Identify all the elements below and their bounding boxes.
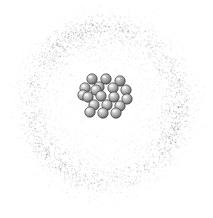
nucleon <box>89 100 99 110</box>
nucleus <box>0 0 213 218</box>
nucleon-group <box>78 74 132 118</box>
nucleon-highlight <box>91 102 95 105</box>
nucleon <box>121 85 131 95</box>
nucleon <box>85 107 95 117</box>
atom-illustration <box>0 0 213 218</box>
nucleon-highlight <box>85 94 89 97</box>
nucleon <box>102 100 112 110</box>
nucleon <box>80 83 90 93</box>
nucleon <box>87 74 97 84</box>
nucleon <box>96 91 106 101</box>
nucleon <box>109 92 119 102</box>
nucleon <box>94 82 104 92</box>
nucleon <box>115 76 125 86</box>
nucleon-highlight <box>117 78 121 81</box>
nucleon <box>98 108 108 118</box>
electron-cloud-svg <box>0 0 213 218</box>
nucleon-highlight <box>110 85 114 88</box>
electron-cloud-stipple <box>3 0 205 208</box>
nucleon-highlight <box>100 110 104 113</box>
nucleon-highlight <box>117 103 121 106</box>
nucleon-highlight <box>123 87 127 90</box>
nucleon-highlight <box>124 96 128 99</box>
nucleon-highlight <box>113 110 117 113</box>
nucleon <box>122 94 132 104</box>
nucleon-highlight <box>104 102 108 105</box>
nucleon-highlight <box>93 87 97 90</box>
nucleon <box>115 101 125 111</box>
nucleon-highlight <box>103 76 107 79</box>
nucleon-highlight <box>80 92 84 95</box>
nucleon <box>91 85 101 95</box>
nucleus-svg <box>0 0 213 218</box>
nucleon-highlight <box>89 76 93 79</box>
nucleon-highlight <box>87 109 91 112</box>
nucleon <box>101 74 111 84</box>
nucleon-highlight <box>82 85 86 88</box>
nucleon <box>111 108 121 118</box>
nucleon-highlight <box>111 94 115 97</box>
nucleon-highlight <box>96 84 100 87</box>
nucleon <box>83 92 93 102</box>
nucleon <box>78 90 88 100</box>
nucleon-highlight <box>98 93 102 96</box>
electron-cloud <box>0 0 213 218</box>
nucleon <box>108 83 118 93</box>
